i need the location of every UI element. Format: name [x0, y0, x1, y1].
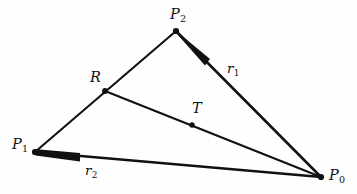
point-marker-p0: [318, 174, 324, 180]
point-marker-p2: [173, 28, 179, 34]
point-marker-r: [102, 88, 108, 94]
label-t: T: [192, 101, 202, 116]
label-p2-base: P: [170, 6, 180, 22]
label-r1-base: r: [227, 60, 233, 76]
point-marker-p1: [32, 149, 38, 155]
label-p2-subscript: 2: [180, 13, 186, 24]
label-r: R: [90, 70, 101, 85]
label-p0-base: P: [329, 167, 339, 183]
label-p1: P1: [12, 137, 28, 152]
point-marker-t: [189, 122, 194, 127]
diagram-canvas: [0, 0, 357, 194]
vector-r2-arrow: [34, 149, 80, 162]
vector-r1-arrow: [173, 29, 210, 66]
label-r-base: R: [90, 69, 101, 85]
triangle-ray-diagram: P2 R T P1 P0 r1 r2: [0, 0, 357, 194]
label-r2-base: r: [85, 162, 91, 178]
segment-r-p0: [105, 91, 321, 177]
label-p2: P2: [170, 7, 186, 22]
label-r2-subscript: 2: [92, 170, 98, 180]
label-p0: P0: [329, 168, 345, 183]
label-p1-base: P: [12, 136, 22, 152]
label-r1: r1: [227, 62, 239, 76]
label-p1-subscript: 1: [22, 143, 28, 154]
label-p0-subscript: 0: [339, 174, 345, 185]
label-t-base: T: [192, 100, 202, 116]
label-r2: r2: [85, 164, 97, 178]
label-r1-subscript: 1: [234, 68, 240, 78]
